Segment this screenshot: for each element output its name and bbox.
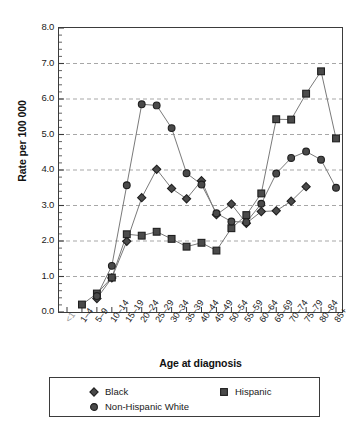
data-point (183, 170, 190, 177)
y-tick-label: 8.0 (28, 22, 54, 32)
legend-label-hispanic: Hispanic (235, 387, 271, 397)
data-point (288, 155, 295, 162)
y-axis-title: Rate per 100 000 (16, 66, 28, 216)
data-point (138, 194, 146, 202)
data-point (272, 207, 280, 215)
legend-label-black: Black (105, 387, 128, 397)
data-point (108, 262, 115, 269)
circle-marker-icon (88, 401, 100, 413)
x-axis-title: Age at diagnosis (58, 357, 343, 369)
data-point (198, 181, 205, 188)
y-tick-label: 7.0 (28, 58, 54, 68)
data-point (153, 102, 160, 109)
data-point (303, 148, 310, 155)
y-tick-label: 4.0 (28, 164, 54, 174)
data-point (213, 247, 220, 254)
x-tick-label: <1 (64, 311, 77, 325)
data-point (183, 243, 190, 250)
data-point (228, 218, 235, 225)
y-axis-minor-ticks (59, 28, 64, 312)
data-point (273, 170, 280, 177)
legend-label-non-hispanic-white: Non-Hispanic White (105, 402, 189, 412)
data-point (153, 228, 160, 235)
data-point (318, 156, 325, 163)
data-point (198, 239, 205, 246)
data-point (93, 293, 100, 300)
y-tick-label: 5.0 (28, 129, 54, 139)
legend-item-non-hispanic-white: Non-Hispanic White (88, 401, 189, 413)
data-point (123, 231, 130, 238)
chart-figure: 0.01.02.03.04.05.06.07.08.0 Rate per 100… (0, 0, 362, 425)
chart-canvas (59, 28, 342, 312)
data-point (213, 210, 220, 217)
y-tick-label: 0.0 (28, 306, 54, 316)
data-point (168, 235, 175, 242)
data-point (243, 219, 250, 226)
square-marker-icon (218, 386, 230, 398)
data-point (228, 225, 235, 232)
data-point (258, 190, 265, 197)
diamond-marker-icon (88, 386, 100, 398)
series-lines (82, 71, 336, 304)
legend-item-hispanic: Hispanic (218, 386, 271, 398)
data-point (138, 101, 145, 108)
data-point (333, 135, 340, 142)
data-point (288, 116, 295, 123)
plot-area (58, 27, 343, 313)
data-point (123, 182, 130, 189)
data-point (108, 274, 115, 281)
data-point (123, 237, 131, 245)
data-point (258, 200, 265, 207)
data-point (333, 184, 340, 191)
data-point (138, 232, 145, 239)
data-point (79, 301, 86, 308)
data-point (243, 212, 250, 219)
y-tick-label: 6.0 (28, 93, 54, 103)
data-point (318, 68, 325, 75)
legend-item-black: Black (88, 386, 128, 398)
data-point (168, 125, 175, 132)
y-tick-label: 3.0 (28, 200, 54, 210)
data-point (303, 90, 310, 97)
data-point (273, 116, 280, 123)
chart-legend: Black Hispanic Non-Hispanic White (49, 377, 320, 417)
y-tick-label: 1.0 (28, 271, 54, 281)
y-tick-label: 2.0 (28, 235, 54, 245)
